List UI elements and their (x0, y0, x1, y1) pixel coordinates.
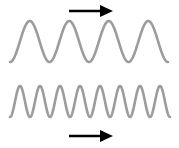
figure-canvas (0, 0, 179, 148)
direction-arrow-top-head-icon (100, 5, 113, 17)
direction-arrow-bottom-head-icon (100, 130, 113, 142)
top-wave-group (10, 21, 168, 62)
bottom-arrow-group (69, 130, 113, 142)
low-frequency-wave (10, 21, 168, 62)
top-arrow-group (69, 5, 113, 17)
high-frequency-wave (10, 86, 170, 117)
bottom-wave-group (10, 86, 170, 117)
wave-frequency-figure (0, 0, 179, 148)
